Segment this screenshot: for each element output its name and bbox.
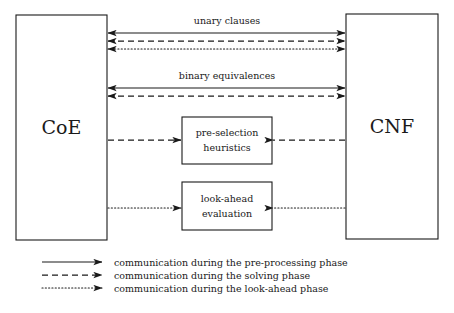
- node-lookahead-evaluation[interactable]: look-ahead evaluation: [182, 182, 272, 230]
- legend-item-lookahead: communication during the look-ahead phas…: [42, 283, 329, 294]
- coe-label: CoE: [42, 116, 82, 138]
- node-cnf[interactable]: CNF: [346, 14, 438, 239]
- lookahead-box[interactable]: [182, 182, 272, 230]
- legend-item-preprocessing: communication during the pre-processing …: [42, 257, 348, 268]
- legend: communication during the pre-processing …: [42, 257, 348, 294]
- preselection-box[interactable]: [182, 117, 272, 164]
- node-preselection-heuristics[interactable]: pre-selection heuristics: [182, 117, 272, 164]
- preselection-label-line1: pre-selection: [196, 127, 259, 138]
- lookahead-label-line2: evaluation: [202, 208, 252, 219]
- diagram-canvas: CoE CNF pre-selection heuristics look-ah…: [0, 0, 454, 313]
- lookahead-label-line1: look-ahead: [201, 193, 253, 204]
- legend-label-solving: communication during the solving phase: [114, 270, 311, 281]
- cnf-label: CNF: [370, 115, 414, 137]
- edge-label-binary-equivalences: binary equivalences: [179, 70, 275, 81]
- legend-label-lookahead: communication during the look-ahead phas…: [114, 283, 329, 294]
- edge-label-unary-clauses: unary clauses: [194, 15, 260, 26]
- preselection-label-line2: heuristics: [203, 142, 250, 153]
- legend-label-preprocessing: communication during the pre-processing …: [114, 257, 348, 268]
- legend-item-solving: communication during the solving phase: [42, 270, 311, 281]
- diagram-svg: CoE CNF pre-selection heuristics look-ah…: [0, 0, 454, 313]
- node-coe[interactable]: CoE: [16, 15, 107, 240]
